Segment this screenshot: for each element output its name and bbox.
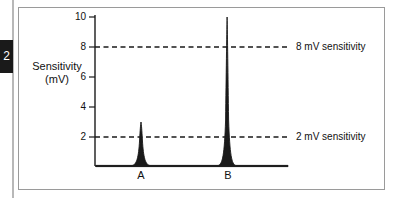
annotation-8mv-sensitivity: 8 mV sensitivity [296,41,365,52]
annotation-2mv-sensitivity: 2 mV sensitivity [296,131,365,142]
y-tick-label-2: 2 [70,131,86,142]
y-tick-label-6: 6 [70,71,86,82]
y-tick-label-10: 10 [70,11,86,22]
figure-page: 2 Sensitivity (mV) 10 8 6 4 2 8 mV sensi… [0,0,397,198]
peak-label-b: B [221,169,235,181]
y-tick-label-8: 8 [70,41,86,52]
peak-label-a: A [134,169,148,181]
y-tick-label-4: 4 [70,101,86,112]
chromatogram-trace [96,17,288,167]
sensitivity-chart [0,0,397,198]
